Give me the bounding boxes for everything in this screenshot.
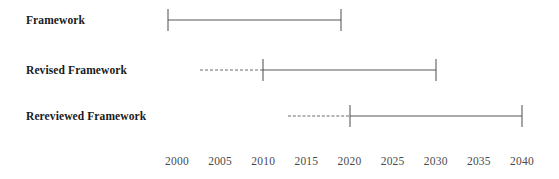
x-tick-2025: 2025 (381, 155, 405, 167)
bar-solid-revised-framework (263, 70, 436, 71)
x-tick-2040: 2040 (510, 155, 534, 167)
bar-end-cap-framework (340, 9, 341, 31)
x-tick-2015: 2015 (294, 155, 318, 167)
x-tick-2020: 2020 (338, 155, 362, 167)
x-tick-2005: 2005 (208, 155, 232, 167)
bar-end-cap-rereviewed-framework (522, 105, 523, 127)
row-label-framework: Framework (26, 14, 85, 26)
bar-start-cap-rereviewed-framework (349, 105, 350, 127)
row-label-revised-framework: Revised Framework (26, 64, 127, 76)
bar-solid-framework (168, 20, 341, 21)
x-tick-2035: 2035 (467, 155, 491, 167)
bar-dashed-revised-framework (200, 70, 263, 71)
timeline-chart: Framework Revised Framework Rereviewed F… (0, 0, 559, 179)
row-label-rereviewed-framework: Rereviewed Framework (26, 110, 146, 122)
x-tick-2000: 2000 (165, 155, 189, 167)
x-tick-2030: 2030 (424, 155, 448, 167)
bar-start-cap-framework (168, 9, 169, 31)
bar-start-cap-revised-framework (263, 59, 264, 81)
x-tick-2010: 2010 (251, 155, 275, 167)
bar-end-cap-revised-framework (435, 59, 436, 81)
bar-solid-rereviewed-framework (350, 116, 523, 117)
bar-dashed-rereviewed-framework (288, 116, 349, 117)
